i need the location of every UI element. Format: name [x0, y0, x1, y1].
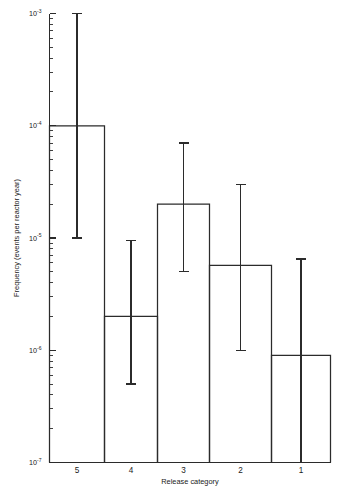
error-bar-1 [296, 259, 306, 462]
error-bar-2 [236, 184, 246, 350]
error-bar-4 [126, 241, 136, 385]
x-tick-label-5: 5 [75, 466, 80, 475]
histogram-plot: 10-310-410-510-610-7 54321 Release categ… [0, 0, 341, 497]
axes [50, 14, 331, 463]
y-tick-label--6: 10-6 [29, 345, 42, 355]
x-axis-title: Release category [161, 477, 219, 486]
bars [50, 126, 331, 463]
x-tick-label-3: 3 [181, 466, 186, 475]
axis-lines [50, 14, 331, 463]
error-bar-3 [179, 143, 189, 272]
x-tick-label-4: 4 [129, 466, 134, 475]
x-tick-label-1: 1 [299, 466, 304, 475]
x-axis-tick-labels: 54321 [75, 466, 304, 475]
chart-figure: 10-310-410-510-610-7 54321 Release categ… [0, 0, 341, 497]
y-tick-label--5: 10-5 [29, 232, 42, 242]
x-axis-category-ticks [105, 459, 272, 463]
y-axis-title: Frequency (events per reactor year) [12, 179, 21, 297]
y-tick-label--4: 10-4 [29, 120, 42, 130]
y-tick-label--3: 10-3 [29, 8, 42, 18]
y-axis-tick-labels: 10-310-410-510-610-7 [29, 8, 42, 467]
x-tick-label-2: 2 [238, 466, 243, 475]
y-tick-label--7: 10-7 [29, 457, 42, 467]
